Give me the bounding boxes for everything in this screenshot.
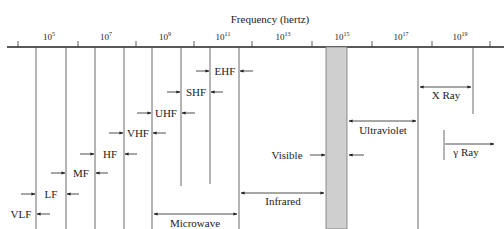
boundary-lines <box>36 47 473 229</box>
tick-label-1e5: 105 <box>43 31 55 42</box>
tick-labels: 105 107 109 1011 1013 1015 1017 1019 <box>43 31 468 42</box>
band-arrows <box>21 71 494 214</box>
tick-label-1e9: 109 <box>159 31 171 42</box>
upper-ticks <box>18 41 490 47</box>
band-label-uhf: UHF <box>155 107 177 119</box>
band-label-visible: Visible <box>271 149 302 161</box>
band-label-gamma: γ Ray <box>452 146 479 158</box>
band-label-mf: MF <box>73 167 89 179</box>
tick-label-1e19: 1019 <box>453 31 468 42</box>
tick-label-1e11: 1011 <box>216 31 231 42</box>
band-label-infrared: Infrared <box>265 195 301 207</box>
tick-label-1e13: 1013 <box>276 31 291 42</box>
band-label-ultraviolet: Ultraviolet <box>359 124 407 136</box>
tick-label-1e7: 107 <box>100 31 112 42</box>
band-label-vlf: VLF <box>11 208 32 220</box>
band-label-xray: X Ray <box>432 89 461 101</box>
band-label-ehf: EHF <box>215 65 236 77</box>
band-label-shf: SHF <box>186 86 206 98</box>
em-spectrum-diagram: Frequency (hertz) 105 107 109 1011 1013 … <box>0 0 504 229</box>
visible-band <box>326 47 347 229</box>
band-label-lf: LF <box>45 188 58 200</box>
band-label-vhf: VHF <box>127 127 149 139</box>
band-label-hf: HF <box>103 148 117 160</box>
tick-label-1e15: 1015 <box>335 31 350 42</box>
band-label-microwave: Microwave <box>170 217 220 229</box>
tick-label-1e17: 1017 <box>394 31 409 42</box>
axis-title: Frequency (hertz) <box>231 13 310 26</box>
